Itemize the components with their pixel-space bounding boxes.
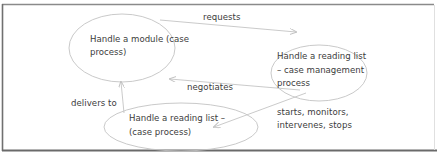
node-reading-list-case-label-line2: (case process) (129, 125, 225, 139)
edge-delivers-to-label: delivers to (71, 97, 117, 109)
edge-delivers-to-arrow (121, 82, 124, 113)
node-module-label-line1: Handle a module (case (90, 33, 189, 46)
node-reading-list-case-label: Handle a reading list – (case process) (129, 111, 225, 139)
node-reading-list-case-label-line1: Handle a reading list – (129, 111, 225, 125)
edge-negotiates-label: negotiates (187, 81, 233, 93)
node-reading-list-cm-label-line2: – case management (277, 64, 366, 78)
node-reading-list-cm-label-line3: process (277, 77, 366, 91)
edge-starts-label-line2: intervenes, stops (277, 119, 352, 132)
node-module-label: Handle a module (case process) (90, 33, 189, 59)
node-reading-list-cm-label: Handle a reading list – case management … (277, 50, 366, 91)
diagram-canvas: Handle a module (case process) Handle a … (0, 0, 437, 160)
edge-starts-label: starts, monitors, intervenes, stops (277, 106, 352, 131)
node-module-label-line2: process) (90, 46, 189, 59)
edge-requests-label: requests (203, 11, 241, 23)
edge-starts-label-line1: starts, monitors, (277, 106, 352, 119)
node-reading-list-cm-label-line1: Handle a reading list (277, 50, 366, 64)
